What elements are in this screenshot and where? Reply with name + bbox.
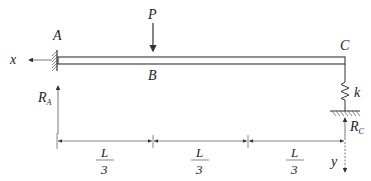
svg-text:3: 3 xyxy=(195,162,203,177)
load-p-label: P xyxy=(147,7,157,22)
fixed-support-a xyxy=(52,50,57,71)
node-c-label: C xyxy=(340,38,350,53)
y-axis-label: y xyxy=(329,154,338,169)
spring-k xyxy=(341,64,349,111)
svg-text:3: 3 xyxy=(290,162,298,177)
spring-k-label: k xyxy=(354,85,361,100)
svg-text:L: L xyxy=(100,145,108,160)
dimension-label-3: L 3 xyxy=(286,145,304,177)
svg-text:3: 3 xyxy=(100,162,108,177)
node-b-label: B xyxy=(148,68,157,83)
beam xyxy=(58,57,345,64)
reaction-rc-label: RC xyxy=(349,119,365,136)
ground-support-c xyxy=(330,111,360,116)
node-a-label: A xyxy=(52,28,62,43)
dimension-label-1: L 3 xyxy=(96,145,114,177)
reaction-ra-label: RA xyxy=(37,90,52,107)
dimension-label-2: L 3 xyxy=(191,145,209,177)
x-axis-label: x xyxy=(9,52,17,67)
svg-text:L: L xyxy=(290,145,298,160)
beam-diagram: x A B C P k RA RC y L xyxy=(0,0,371,181)
svg-text:L: L xyxy=(195,145,203,160)
